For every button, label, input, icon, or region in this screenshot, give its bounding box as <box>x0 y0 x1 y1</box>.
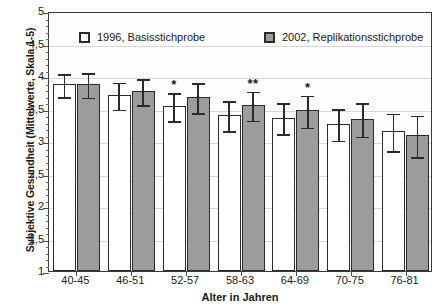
x-axis-tick-label: 58-63 <box>226 274 254 286</box>
x-axis-tick-label: 52-57 <box>171 274 199 286</box>
significance-marker: ** <box>247 79 258 89</box>
y-axis-tick-label: 1,5 <box>16 234 44 245</box>
significance-marker: * <box>171 80 177 90</box>
x-axis-tick-label: 40-45 <box>61 274 89 286</box>
y-axis-tick-label: 2,5 <box>16 169 44 180</box>
significance-marks-layer: **** <box>49 13 431 271</box>
y-axis-tick-label: 4 <box>16 71 44 82</box>
x-axis-title: Alter in Jahren <box>48 291 432 303</box>
x-axis-tick-label: 46-51 <box>116 274 144 286</box>
x-axis-tick-label: 64-69 <box>281 274 309 286</box>
bar-chart-figure: Subjektive Gesundheit (Mittelwerte, Skal… <box>0 0 438 307</box>
x-axis-tick-label: 70-75 <box>336 274 364 286</box>
y-axis-tick-label: 1 <box>16 266 44 277</box>
y-axis-tick-labels: 11,522,533,544,55 <box>14 0 44 307</box>
x-axis-tick-labels: 40-4546-5152-5758-6364-6970-7576-81 <box>48 274 432 290</box>
x-axis-tick-label: 76-81 <box>390 274 418 286</box>
y-axis-tick-label: 3 <box>16 136 44 147</box>
significance-marker: * <box>305 83 311 93</box>
plot-area: **** 1996, Basisstichprobe2002, Replikat… <box>48 12 432 272</box>
y-axis-tick-label: 3,5 <box>16 104 44 115</box>
y-axis-tick-label: 5 <box>16 6 44 17</box>
y-axis-tick-label: 2 <box>16 201 44 212</box>
y-axis-tick-label: 4,5 <box>16 39 44 50</box>
